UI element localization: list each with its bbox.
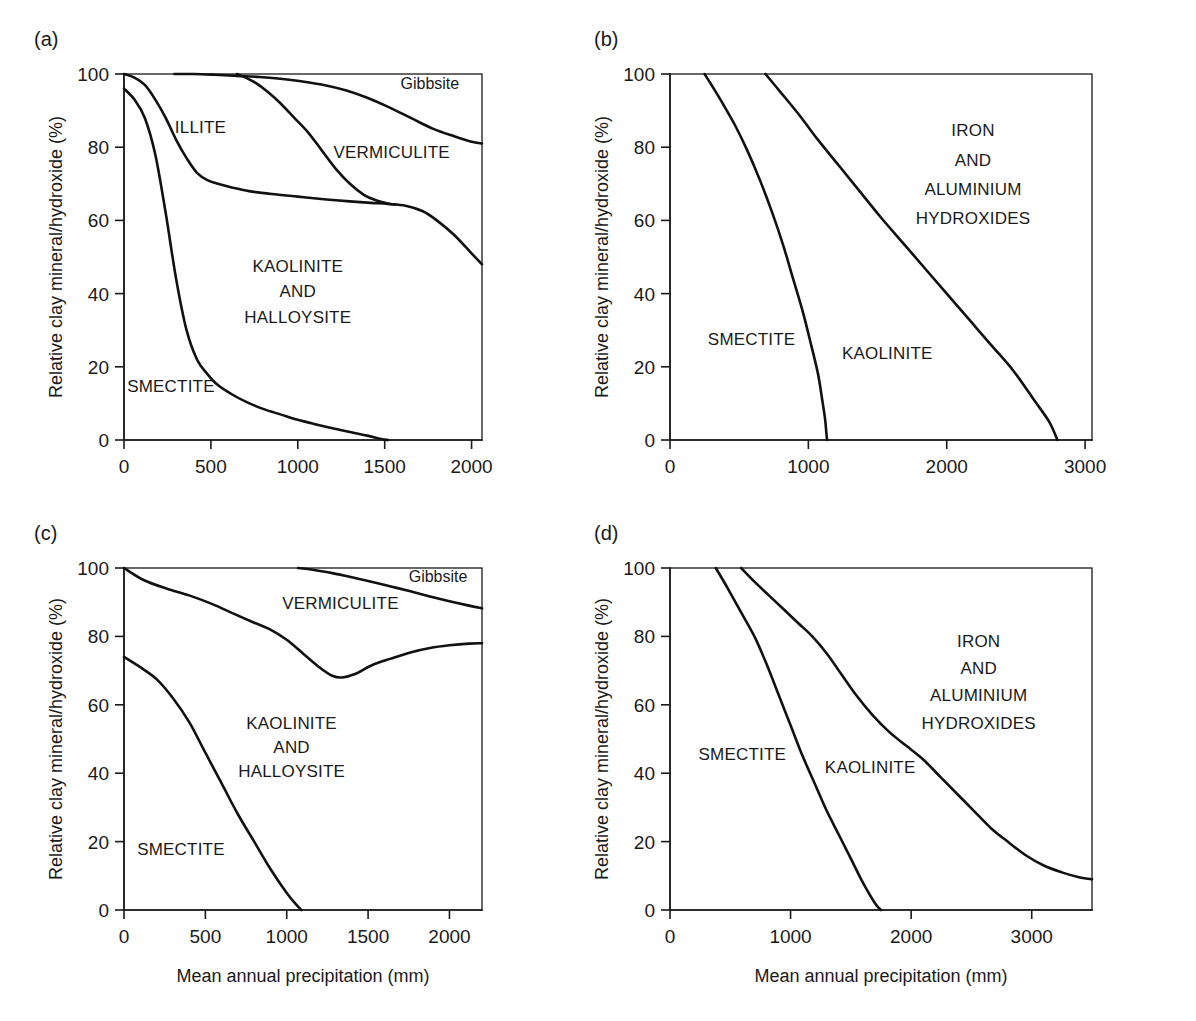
y-tick-label: 80	[634, 626, 655, 647]
region-label: SMECTITE	[127, 377, 215, 396]
region-label: HALLOYSITE	[238, 762, 345, 781]
x-tick-label: 0	[119, 456, 130, 477]
y-tick-label: 20	[634, 832, 655, 853]
x-tick-label: 1500	[364, 456, 406, 477]
region-label: AND	[280, 282, 317, 301]
region-label: SMECTITE	[699, 745, 787, 764]
y-tick-label: 100	[77, 558, 109, 579]
panel-tag: (b)	[594, 28, 618, 50]
region-label: AND	[273, 738, 310, 757]
y-tick-label: 100	[623, 558, 655, 579]
boundary-curve-vermiculite-lower-boundary	[237, 74, 395, 205]
boundary-curve-illite-upper-boundary	[124, 74, 482, 264]
region-label: VERMICULITE	[333, 143, 450, 162]
region-label: KAOLINITE	[252, 257, 343, 276]
y-axis-title: Relative clay mineral/hydroxide (%)	[46, 116, 66, 398]
y-tick-label: 60	[88, 210, 109, 231]
panel-tag: (d)	[594, 522, 618, 544]
region-label: Gibbsite	[401, 75, 460, 92]
x-tick-label: 1500	[347, 926, 389, 947]
clay-mineral-precipitation-figure: (a)0204060801000500100015002000Relative …	[0, 0, 1196, 1021]
region-label: KAOLINITE	[842, 344, 933, 363]
panel-b: (b)0204060801000100020003000Relative cla…	[560, 0, 1196, 510]
y-tick-label: 0	[98, 430, 109, 451]
plot-axes	[670, 74, 1092, 440]
y-tick-label: 60	[634, 695, 655, 716]
x-tick-label: 500	[195, 456, 227, 477]
y-axis-title: Relative clay mineral/hydroxide (%)	[592, 598, 612, 880]
y-tick-label: 0	[98, 900, 109, 921]
y-axis-title: Relative clay mineral/hydroxide (%)	[592, 116, 612, 398]
region-label: IRON	[957, 632, 1000, 651]
panel-c: (c)0204060801000500100015002000Relative …	[0, 500, 580, 1021]
y-tick-label: 0	[644, 900, 655, 921]
x-tick-label: 1000	[787, 456, 829, 477]
y-tick-label: 40	[88, 284, 109, 305]
region-label: AND	[960, 659, 997, 678]
x-tick-label: 0	[665, 456, 676, 477]
region-label: HYDROXIDES	[921, 714, 1035, 733]
boundary-curve-kaolinite-hydroxides-boundary	[741, 568, 1092, 879]
region-label: ALUMINIUM	[930, 686, 1027, 705]
y-tick-label: 80	[88, 626, 109, 647]
y-tick-label: 100	[623, 64, 655, 85]
boundary-curve-smectite-upper-boundary	[124, 657, 301, 910]
y-axis-title: Relative clay mineral/hydroxide (%)	[46, 598, 66, 880]
x-tick-label: 2000	[450, 456, 492, 477]
region-label: SMECTITE	[708, 330, 796, 349]
x-tick-label: 0	[119, 926, 130, 947]
panel-tag: (a)	[34, 28, 58, 50]
region-label: IRON	[951, 121, 994, 140]
x-axis-title: Mean annual precipitation (mm)	[754, 966, 1007, 986]
region-label: ALUMINIUM	[924, 180, 1021, 199]
y-tick-label: 40	[634, 284, 655, 305]
boundary-curve-kaolinite-hydroxides-boundary	[765, 74, 1057, 440]
x-tick-label: 2000	[428, 926, 470, 947]
region-label: VERMICULITE	[282, 594, 399, 613]
y-tick-label: 20	[634, 357, 655, 378]
region-label: Gibbsite	[409, 568, 468, 585]
region-label: SMECTITE	[137, 840, 225, 859]
region-label: HALLOYSITE	[244, 308, 351, 327]
region-label: AND	[955, 151, 992, 170]
x-axis-title: Mean annual precipitation (mm)	[176, 966, 429, 986]
x-tick-label: 3000	[1064, 456, 1106, 477]
x-tick-label: 0	[665, 926, 676, 947]
y-tick-label: 80	[88, 137, 109, 158]
panel-a: (a)0204060801000500100015002000Relative …	[0, 0, 580, 510]
region-label: HYDROXIDES	[916, 209, 1030, 228]
y-tick-label: 100	[77, 64, 109, 85]
y-tick-label: 60	[88, 695, 109, 716]
x-tick-label: 500	[190, 926, 222, 947]
y-tick-label: 60	[634, 210, 655, 231]
x-tick-label: 1000	[769, 926, 811, 947]
x-tick-label: 1000	[266, 926, 308, 947]
x-tick-label: 2000	[890, 926, 932, 947]
y-tick-label: 80	[634, 137, 655, 158]
region-label: KAOLINITE	[246, 714, 337, 733]
panel-d: (d)0204060801000100020003000Relative cla…	[560, 500, 1196, 1021]
x-tick-label: 1000	[277, 456, 319, 477]
region-label: ILLITE	[175, 118, 226, 137]
y-tick-label: 40	[634, 763, 655, 784]
y-tick-label: 20	[88, 832, 109, 853]
panel-tag: (c)	[34, 522, 57, 544]
y-tick-label: 0	[644, 430, 655, 451]
y-tick-label: 20	[88, 357, 109, 378]
y-tick-label: 40	[88, 763, 109, 784]
x-tick-label: 2000	[926, 456, 968, 477]
region-label: KAOLINITE	[825, 758, 916, 777]
plot-frame	[670, 74, 1092, 440]
x-tick-label: 3000	[1011, 926, 1053, 947]
boundary-curve-smectite-kaolinite-boundary	[716, 568, 881, 910]
